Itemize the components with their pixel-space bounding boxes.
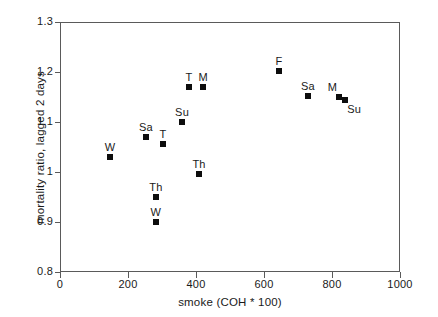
y-tick-label: 0.8 bbox=[1, 266, 53, 277]
y-tick-label: 1.3 bbox=[1, 16, 53, 27]
data-point-label: Su bbox=[347, 104, 361, 115]
x-tick-label: 0 bbox=[57, 279, 63, 290]
data-point-label: Sa bbox=[139, 122, 153, 133]
y-tick-mark bbox=[55, 222, 61, 223]
data-point-marker bbox=[305, 93, 311, 99]
data-point-label: M bbox=[328, 82, 337, 93]
x-tick-label: 600 bbox=[255, 279, 274, 290]
x-tick-label: 200 bbox=[119, 279, 138, 290]
data-point-marker bbox=[200, 84, 206, 90]
data-point-label: Su bbox=[175, 107, 189, 118]
scatter-chart: 0.80.911.11.21.302004006008001000 WSaTTh… bbox=[0, 0, 438, 317]
data-point-label: W bbox=[151, 207, 162, 218]
y-axis-label: mortality ratio, lagged 2 days bbox=[34, 28, 47, 268]
x-tick-label: 1000 bbox=[387, 279, 412, 290]
data-point-label: T bbox=[160, 129, 167, 140]
data-point-marker bbox=[153, 219, 159, 225]
data-point-label: Sa bbox=[301, 81, 315, 92]
data-point-marker bbox=[143, 134, 149, 140]
data-point-marker bbox=[336, 94, 342, 100]
data-point-label: T bbox=[185, 72, 192, 83]
y-tick-mark bbox=[55, 22, 61, 23]
data-point-label: M bbox=[198, 72, 207, 83]
y-tick-label-wrap: 1.3 bbox=[0, 16, 53, 27]
data-point-marker bbox=[107, 154, 113, 160]
data-point-label: W bbox=[105, 142, 116, 153]
data-point-label: F bbox=[275, 56, 282, 67]
data-point-marker bbox=[160, 141, 166, 147]
x-tick-label: 800 bbox=[323, 279, 342, 290]
data-point-marker bbox=[179, 119, 185, 125]
y-tick-mark bbox=[55, 72, 61, 73]
data-point-label: Th bbox=[192, 159, 205, 170]
data-point-marker bbox=[153, 194, 159, 200]
y-tick-label-wrap: 0.8 bbox=[0, 266, 53, 277]
data-point-marker bbox=[186, 84, 192, 90]
data-point-marker bbox=[196, 171, 202, 177]
y-tick-mark bbox=[55, 122, 61, 123]
x-axis-label: smoke (COH * 100) bbox=[60, 296, 400, 309]
y-tick-mark bbox=[55, 172, 61, 173]
data-point-marker bbox=[276, 68, 282, 74]
data-point-label: Th bbox=[149, 182, 162, 193]
x-tick-label: 400 bbox=[187, 279, 206, 290]
